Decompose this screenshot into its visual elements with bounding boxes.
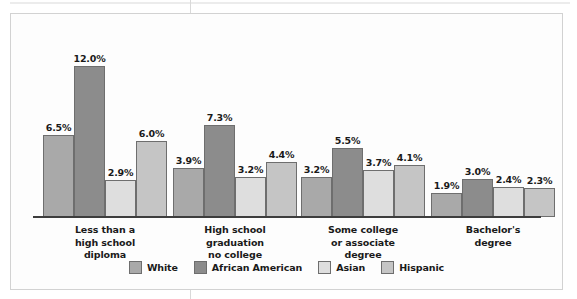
bar-group: 3.9%7.3%3.2%4.4% <box>173 14 297 217</box>
category-label-line: no college <box>161 249 309 262</box>
legend-swatch-icon <box>194 261 207 274</box>
bar-value-label: 6.0% <box>134 128 169 139</box>
category-label-line: or associate <box>289 237 437 250</box>
chart-frame: 6.5%12.0%2.9%6.0%3.9%7.3%3.2%4.4%3.2%5.5… <box>10 13 563 290</box>
category-label-line: High school <box>161 224 309 237</box>
legend-item-white[interactable]: White <box>129 261 178 274</box>
category-label-line: Bachelor's <box>419 224 567 237</box>
legend-item-african-american[interactable]: African American <box>194 261 302 274</box>
category-label: Some collegeor associatedegree <box>289 224 437 262</box>
bar[interactable] <box>105 180 136 217</box>
bar[interactable] <box>363 170 394 217</box>
bar-group: 6.5%12.0%2.9%6.0% <box>43 14 167 217</box>
bar-value-label: 7.3% <box>202 112 237 123</box>
bar[interactable] <box>394 165 425 217</box>
legend-swatch-icon <box>381 261 394 274</box>
bar-value-label: 3.2% <box>233 164 268 175</box>
bar-group: 3.2%5.5%3.7%4.1% <box>301 14 425 217</box>
category-label-line: graduation <box>161 237 309 250</box>
bar-value-label: 4.4% <box>264 149 299 160</box>
legend-label: African American <box>212 262 302 273</box>
legend-label: White <box>147 262 178 273</box>
bar-value-label: 2.3% <box>522 175 557 186</box>
bar-value-label: 2.9% <box>103 167 138 178</box>
bar[interactable] <box>43 135 74 217</box>
bar[interactable] <box>204 125 235 217</box>
bar-value-label: 1.9% <box>429 180 464 191</box>
category-label-line: Less than a <box>31 224 179 237</box>
category-label-line: degree <box>289 249 437 262</box>
bar-value-label: 4.1% <box>392 152 427 163</box>
chart-legend: WhiteAfrican AmericanAsianHispanic <box>11 261 562 274</box>
bar[interactable] <box>462 179 493 217</box>
category-label-line: high school <box>31 237 179 250</box>
bar[interactable] <box>173 168 204 217</box>
bar-value-label: 3.9% <box>171 155 206 166</box>
bar[interactable] <box>266 162 297 217</box>
legend-item-hispanic[interactable]: Hispanic <box>381 261 444 274</box>
bar[interactable] <box>493 187 524 217</box>
legend-label: Asian <box>336 262 365 273</box>
category-label-line: diploma <box>31 249 179 262</box>
category-label-line: Some college <box>289 224 437 237</box>
bar-value-label: 5.5% <box>330 135 365 146</box>
bar-group: 1.9%3.0%2.4%2.3% <box>431 14 555 217</box>
bar-value-label: 12.0% <box>72 53 107 64</box>
bar[interactable] <box>332 148 363 217</box>
scan-top-edge <box>10 2 570 4</box>
bar-value-label: 6.5% <box>41 122 76 133</box>
legend-item-asian[interactable]: Asian <box>318 261 365 274</box>
category-label: Less than ahigh schooldiploma <box>31 224 179 262</box>
category-label: Bachelor'sdegree <box>419 224 567 249</box>
bar[interactable] <box>235 177 266 217</box>
category-label-line: degree <box>419 237 567 250</box>
category-label: High schoolgraduationno college <box>161 224 309 262</box>
bar-value-label: 2.4% <box>491 174 526 185</box>
bar[interactable] <box>524 188 555 217</box>
bar[interactable] <box>301 177 332 217</box>
bar[interactable] <box>136 141 167 217</box>
bar[interactable] <box>74 66 105 217</box>
x-axis-baseline <box>33 216 541 218</box>
plot-area: 6.5%12.0%2.9%6.0%3.9%7.3%3.2%4.4%3.2%5.5… <box>11 14 562 219</box>
legend-label: Hispanic <box>399 262 444 273</box>
legend-swatch-icon <box>129 261 142 274</box>
bar-value-label: 3.2% <box>299 164 334 175</box>
bar-value-label: 3.7% <box>361 157 396 168</box>
bar[interactable] <box>431 193 462 217</box>
bar-value-label: 3.0% <box>460 166 495 177</box>
legend-swatch-icon <box>318 261 331 274</box>
